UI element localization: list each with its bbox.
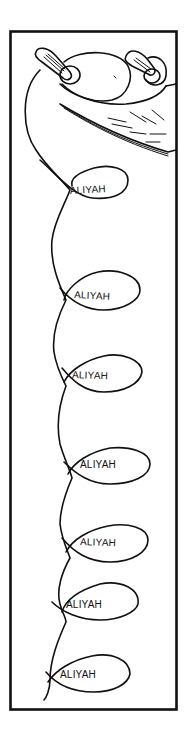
aliyah-label-7: ALIYAH	[60, 669, 96, 680]
aliyah-label-4: ALIYAH	[80, 459, 116, 470]
aliyah-loops	[40, 160, 150, 692]
aliyah-label-3: ALIYAH	[72, 369, 108, 381]
torah-scroll-icon	[35, 48, 176, 156]
aliyah-label-2: ALIYAH	[74, 289, 111, 302]
aliyah-label-5: ALIYAH	[80, 536, 116, 548]
aliyah-label-6: ALIYAH	[66, 599, 102, 610]
aliyah-label-1: ALIYAH	[70, 183, 107, 196]
illustration: ALIYAH ALIYAH ALIYAH ALIYAH ALIYAH ALIYA…	[0, 0, 186, 732]
